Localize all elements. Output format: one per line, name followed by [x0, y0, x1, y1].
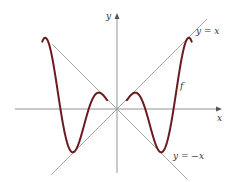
line-label-y-eq-neg-x: y = −x — [172, 151, 204, 161]
curve-f-right-branch — [127, 38, 192, 153]
labels: y x y = x y = −x f — [105, 11, 222, 161]
line-label-y-eq-x: y = x — [195, 26, 219, 36]
curve-label-f: f — [179, 81, 185, 91]
x-axis-arrow-icon — [216, 107, 222, 112]
curve-f-left-branch — [42, 38, 107, 153]
reference-line-y-eq-neg-x — [52, 44, 187, 179]
y-axis-arrow-icon — [115, 13, 120, 19]
x-axis-label: x — [217, 113, 222, 123]
function-plot: y x y = x y = −x f — [0, 0, 232, 182]
y-axis-label: y — [105, 11, 112, 21]
